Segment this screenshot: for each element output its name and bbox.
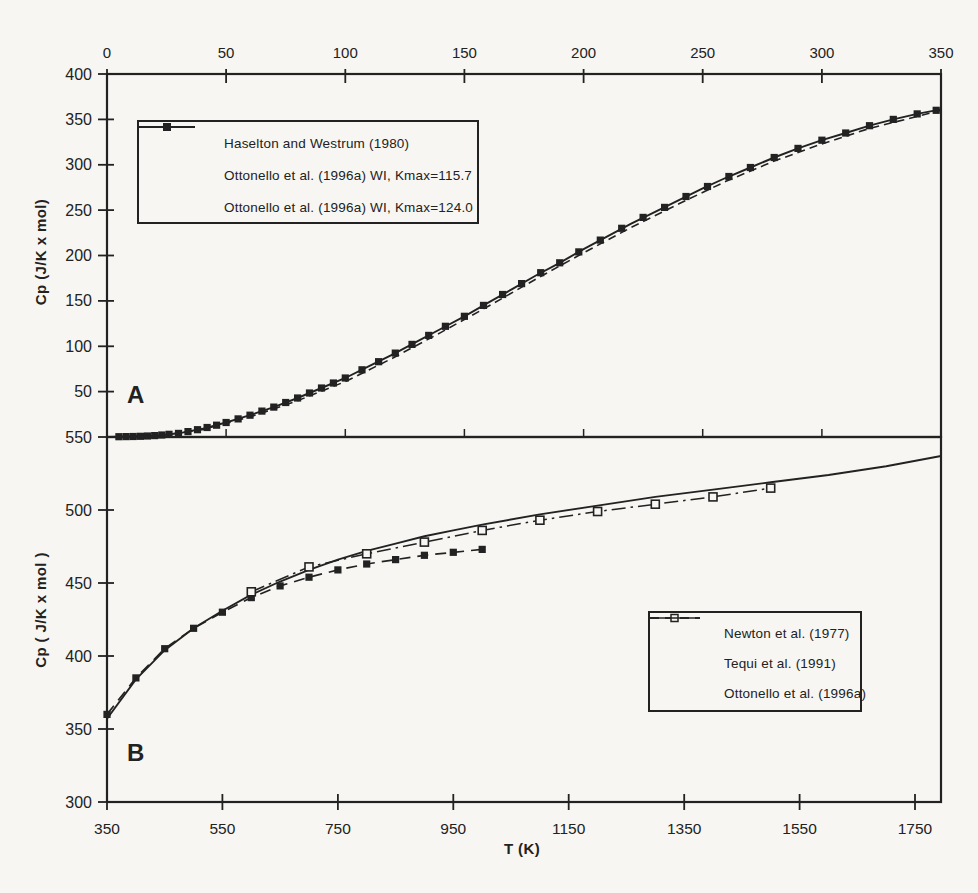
legend-entry-ottonello: Ottonello et al. (1996a) bbox=[660, 678, 860, 708]
legend-label: Ottonello et al. (1996a) WI, Kmax=124.0 bbox=[224, 200, 473, 215]
svg-text:200: 200 bbox=[571, 44, 596, 61]
legend-label: Haselton and Westrum (1980) bbox=[224, 136, 409, 151]
panel-b-y-axis-title: Cp ( J/K x mol ) bbox=[32, 552, 49, 668]
svg-text:950: 950 bbox=[440, 820, 466, 837]
legend-label: Tequi et al. (1991) bbox=[724, 656, 836, 671]
legend-entry-haselton: Haselton and Westrum (1980) bbox=[153, 127, 477, 159]
svg-text:500: 500 bbox=[65, 502, 92, 519]
svg-text:350: 350 bbox=[65, 111, 92, 128]
legend-entry-ottonello-115: Ottonello et al. (1996a) WI, Kmax=115.7 bbox=[153, 159, 477, 191]
svg-text:450: 450 bbox=[65, 575, 92, 592]
svg-text:300: 300 bbox=[65, 156, 92, 173]
panel-b-label: B bbox=[127, 739, 145, 767]
panel-a-label: A bbox=[127, 381, 145, 409]
svg-text:50: 50 bbox=[74, 383, 92, 400]
legend-entry-tequi: Tequi et al. (1991) bbox=[660, 648, 860, 678]
svg-text:200: 200 bbox=[65, 247, 92, 264]
svg-text:100: 100 bbox=[65, 338, 92, 355]
svg-text:300: 300 bbox=[809, 44, 834, 61]
panel-a-legend: Haselton and Westrum (1980) Ottonello et… bbox=[137, 120, 479, 224]
legend-label: Ottonello et al. (1996a) WI, Kmax=115.7 bbox=[224, 168, 472, 183]
svg-text:1750: 1750 bbox=[898, 820, 933, 837]
svg-text:350: 350 bbox=[65, 721, 92, 738]
svg-text:350: 350 bbox=[94, 820, 120, 837]
legend-entry-ottonello-124: Ottonello et al. (1996a) WI, Kmax=124.0 bbox=[153, 191, 477, 223]
panel-a-y-axis-title: Cp (J/K x mol) bbox=[32, 199, 49, 305]
svg-text:550: 550 bbox=[65, 429, 92, 446]
cp-figure: 0501001502002503003504003503002502001501… bbox=[0, 0, 978, 893]
svg-text:250: 250 bbox=[690, 44, 715, 61]
panel-b-legend: Newton et al. (1977) Tequi et al. (1991)… bbox=[648, 611, 862, 712]
legend-label: Newton et al. (1977) bbox=[724, 626, 850, 641]
svg-text:100: 100 bbox=[333, 44, 358, 61]
svg-text:1150: 1150 bbox=[552, 820, 586, 837]
svg-text:400: 400 bbox=[65, 66, 92, 83]
legend-label: Ottonello et al. (1996a) bbox=[724, 686, 866, 701]
svg-text:1350: 1350 bbox=[667, 820, 702, 837]
svg-text:150: 150 bbox=[65, 292, 92, 309]
svg-text:350: 350 bbox=[928, 44, 953, 61]
svg-text:250: 250 bbox=[65, 202, 92, 219]
svg-text:0: 0 bbox=[103, 44, 111, 61]
svg-text:550: 550 bbox=[209, 820, 235, 837]
svg-text:1550: 1550 bbox=[782, 820, 817, 837]
svg-text:750: 750 bbox=[325, 820, 351, 837]
svg-text:400: 400 bbox=[65, 648, 92, 665]
svg-text:150: 150 bbox=[452, 44, 477, 61]
svg-text:300: 300 bbox=[65, 794, 92, 811]
svg-text:50: 50 bbox=[218, 44, 235, 61]
x-axis-title: T (K) bbox=[504, 840, 540, 857]
